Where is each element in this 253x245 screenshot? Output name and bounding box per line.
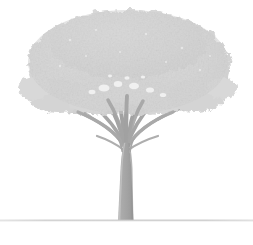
tree-illustration [0,0,253,245]
tree-image: Faded light-gray photograph of a broad-c… [0,0,253,245]
ground-line-feather [0,221,253,222]
ground-line [0,220,253,221]
